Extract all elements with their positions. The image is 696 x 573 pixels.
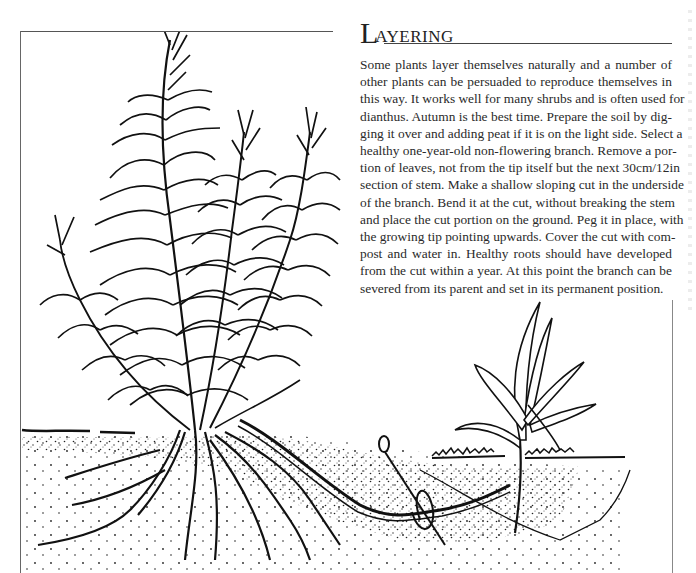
page-bleed-through xyxy=(688,10,692,310)
layering-illustration xyxy=(21,32,672,573)
frame-right-border xyxy=(672,300,673,573)
parent-plant xyxy=(40,32,340,430)
grass-surface xyxy=(432,448,625,458)
